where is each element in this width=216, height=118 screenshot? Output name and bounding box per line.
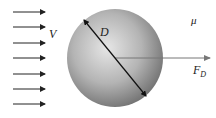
flow-arrows — [13, 12, 45, 104]
velocity-label: V — [49, 28, 56, 40]
drag-sphere-diagram: V D μ FD — [0, 0, 216, 118]
drag-force-label-subscript: D — [200, 70, 206, 79]
viscosity-label: μ — [191, 15, 197, 26]
diameter-label: D — [100, 26, 109, 38]
diagram-canvas — [0, 0, 216, 118]
drag-force-label: FD — [193, 64, 206, 79]
